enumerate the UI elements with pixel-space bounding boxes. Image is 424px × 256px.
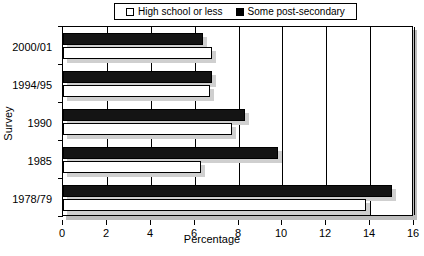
- y-axis-tick: [58, 26, 63, 27]
- y-axis-tick-label: 2000/01: [0, 42, 52, 53]
- plot-area: [62, 26, 413, 216]
- legend-entry-high-school: High school or less: [126, 7, 222, 17]
- x-axis-tick: [106, 220, 107, 225]
- bar-some-post-secondary: [63, 33, 203, 45]
- x-axis-tick: [413, 220, 414, 225]
- x-axis-tick: [150, 220, 151, 225]
- bar-some-post-secondary: [63, 185, 392, 197]
- bar-some-post-secondary: [63, 109, 245, 121]
- gridline: [414, 27, 415, 215]
- y-axis-tick-label: 1978/79: [0, 194, 52, 205]
- bar-some-post-secondary: [63, 71, 212, 83]
- chart-legend: High school or less Some post-secondary: [114, 3, 357, 20]
- x-axis-tick: [369, 220, 370, 225]
- bar-some-post-secondary: [63, 147, 278, 159]
- y-axis-tick-label: 1985: [0, 156, 52, 167]
- x-axis-tick: [281, 220, 282, 225]
- y-axis-tick: [58, 216, 63, 217]
- x-axis-tick: [325, 220, 326, 225]
- bar-high-school-or-less: [63, 123, 232, 135]
- y-axis-title: Survey: [3, 94, 14, 154]
- y-axis-tick: [58, 178, 63, 179]
- bar-high-school-or-less: [63, 161, 201, 173]
- y-axis-tick: [58, 140, 63, 141]
- legend-entry-post-secondary: Some post-secondary: [236, 7, 345, 17]
- legend-label-high-school: High school or less: [138, 7, 222, 17]
- filled-square-icon: [236, 8, 244, 16]
- x-axis-tick: [238, 220, 239, 225]
- bar-high-school-or-less: [63, 47, 212, 59]
- y-axis-tick: [58, 64, 63, 65]
- y-axis-tick-label: 1994/95: [0, 80, 52, 91]
- x-axis-title: Percentage: [0, 234, 424, 245]
- legend-label-post-secondary: Some post-secondary: [248, 7, 345, 17]
- bar-high-school-or-less: [63, 199, 366, 211]
- open-square-icon: [126, 8, 134, 16]
- bar-high-school-or-less: [63, 85, 210, 97]
- y-axis-tick: [58, 102, 63, 103]
- bars-layer: [63, 27, 412, 215]
- x-axis-tick: [62, 220, 63, 225]
- bar-chart: High school or less Some post-secondary …: [0, 0, 424, 256]
- x-axis-tick: [194, 220, 195, 225]
